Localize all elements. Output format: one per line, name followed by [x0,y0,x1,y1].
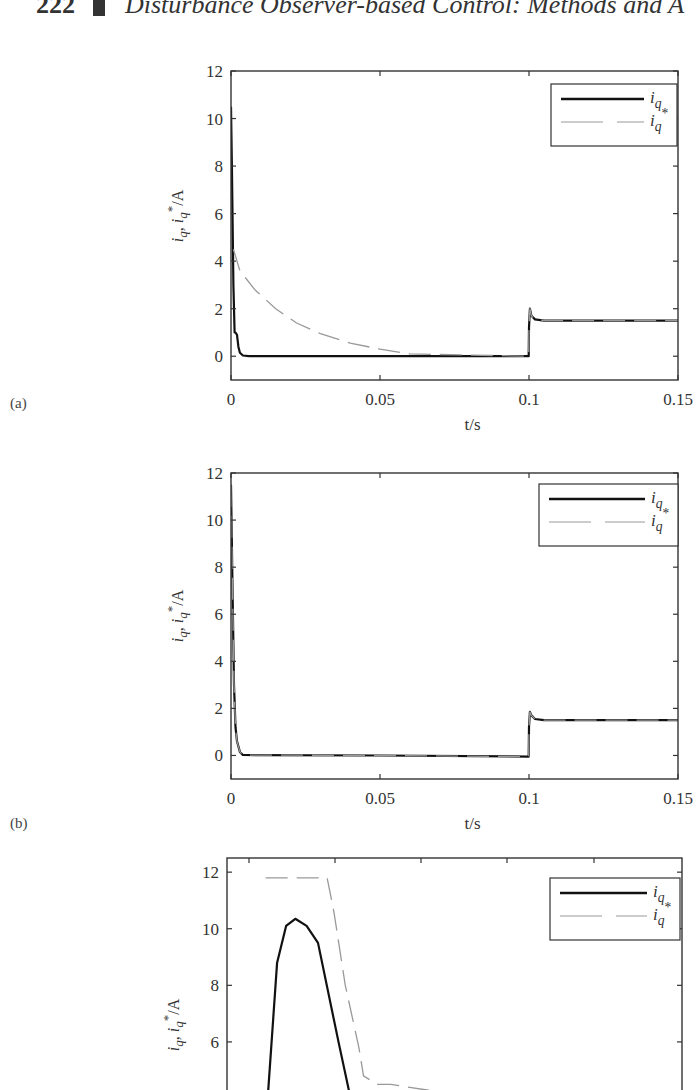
svg-text:iq, iq*/A: iq, iq*/A [164,589,190,642]
y-tick-label: 10 [202,920,219,939]
x-tick-label: 0.05 [365,789,395,808]
x-tick-label: 0.15 [663,789,693,808]
legend: iqiq* [539,484,678,546]
x-tick-label: 0.1 [518,789,539,808]
y-tick-label: 6 [215,205,224,224]
y-tick-label: 4 [215,252,224,271]
x-tick-label: 0 [227,390,236,409]
x-tick-label: 0.1 [518,390,539,409]
y-tick-label: 10 [206,511,223,530]
y-tick-label: 2 [215,699,224,718]
book-title: Disturbance Observer-based Control: Meth… [125,0,684,19]
y-tick-label: 2 [215,300,224,319]
y-tick-label: 6 [211,1033,220,1052]
y-tick-label: 10 [206,110,223,129]
y-tick-label: 0 [215,746,224,765]
series-line-iq [266,919,357,1090]
chart-panel-c: 4681012iq, iq*/Aiqiq* [0,830,699,1090]
legend: iqiq* [551,84,677,146]
y-tick-label: 4 [215,652,224,671]
x-tick-label: 0.15 [663,390,693,409]
y-tick-label: 6 [215,605,224,624]
x-axis-label: t/s [464,415,480,434]
series-line-iq-ref [233,249,678,356]
y-tick-label: 12 [202,863,219,882]
y-tick-label: 0 [215,347,224,366]
chart-panel-b: 02468101200.050.10.15t/siq, iq*/Aiqiq* [0,440,699,840]
y-axis-label: iq, iq*/A [160,998,186,1051]
y-axis-label: iq, iq*/A [164,589,190,642]
header-separator-square [93,0,105,16]
x-tick-label: 0.05 [365,390,395,409]
svg-text:iq, iq*/A: iq, iq*/A [160,998,186,1051]
y-tick-label: 12 [206,62,223,81]
page-number: 222 [36,0,75,19]
chart-panel-a: 02468101200.050.10.15t/siq, iq*/Aiqiq* [0,40,699,470]
legend: iqiq* [550,878,680,940]
y-tick-label: 8 [211,976,220,995]
y-axis-label: iq, iq*/A [164,189,190,242]
y-tick-label: 8 [215,157,224,176]
y-tick-label: 8 [215,558,224,577]
x-tick-label: 0 [227,789,236,808]
page-header: 222Disturbance Observer-based Control: M… [36,0,684,20]
svg-text:iq, iq*/A: iq, iq*/A [164,189,190,242]
y-tick-label: 12 [206,464,223,483]
